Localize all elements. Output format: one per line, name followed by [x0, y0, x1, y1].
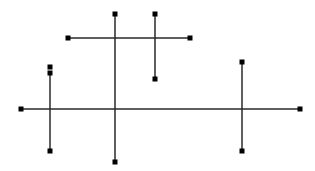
segments-layer — [21, 14, 300, 162]
endpoint-handle-icon[interactable] — [113, 160, 118, 165]
endpoint-handle-icon[interactable] — [188, 36, 193, 41]
endpoint-handle-icon[interactable] — [240, 149, 245, 154]
endpoint-handle-icon[interactable] — [113, 12, 118, 17]
endpoint-handle-icon[interactable] — [48, 71, 53, 76]
endpoint-handle-icon[interactable] — [298, 107, 303, 112]
endpoint-handle-icon[interactable] — [48, 149, 53, 154]
endpoint-handle-icon[interactable] — [66, 36, 71, 41]
handles-layer — [19, 12, 303, 165]
endpoint-handle-icon[interactable] — [153, 12, 158, 17]
endpoint-handle-icon[interactable] — [19, 107, 24, 112]
endpoint-handle-icon[interactable] — [153, 77, 158, 82]
endpoint-handle-icon[interactable] — [240, 60, 245, 65]
line-segment-diagram — [0, 0, 315, 171]
endpoint-handle-icon[interactable] — [48, 65, 53, 70]
diagram-canvas — [0, 0, 315, 171]
